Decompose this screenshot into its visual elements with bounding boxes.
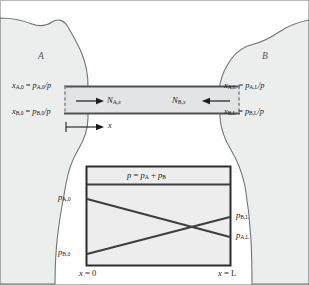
tube-body (64, 86, 240, 114)
mole-fraction-b0-equation: xB,0 = pB,0/p (12, 108, 51, 117)
mole-fraction-aL-equation: xA,L = pA,L/p (224, 82, 265, 91)
x-tick-label-zero: x = 0 (79, 269, 96, 278)
mole-fraction-a0-equation: xA,0 = pA,0/p (12, 82, 51, 91)
vessel-b-label: B (262, 52, 268, 62)
series-b-left-label: pB,0 (58, 248, 70, 258)
mole-fraction-bL-equation: xB,L = pB,L/p (224, 108, 264, 117)
series-a-left-label: pA,0 (58, 193, 71, 203)
total-pressure-annotation: p = pA + pB (127, 171, 166, 181)
vessel-a-label: A (38, 52, 44, 62)
flux-a-label: NA,x (107, 96, 121, 106)
chart-plot-box (87, 167, 231, 266)
diffusion-figure: A B xA,0 = pA,0/p xB,0 = pB,0/p xA,L = p… (0, 0, 309, 285)
x-axis-label: x (108, 122, 112, 130)
figure-canvas (0, 0, 309, 285)
series-b-right-label: pB,L (236, 211, 249, 221)
x-tick-label-length: x = L (218, 269, 236, 278)
series-a-right-label: pA,L (236, 231, 249, 241)
flux-b-label: NB,x (172, 96, 185, 106)
